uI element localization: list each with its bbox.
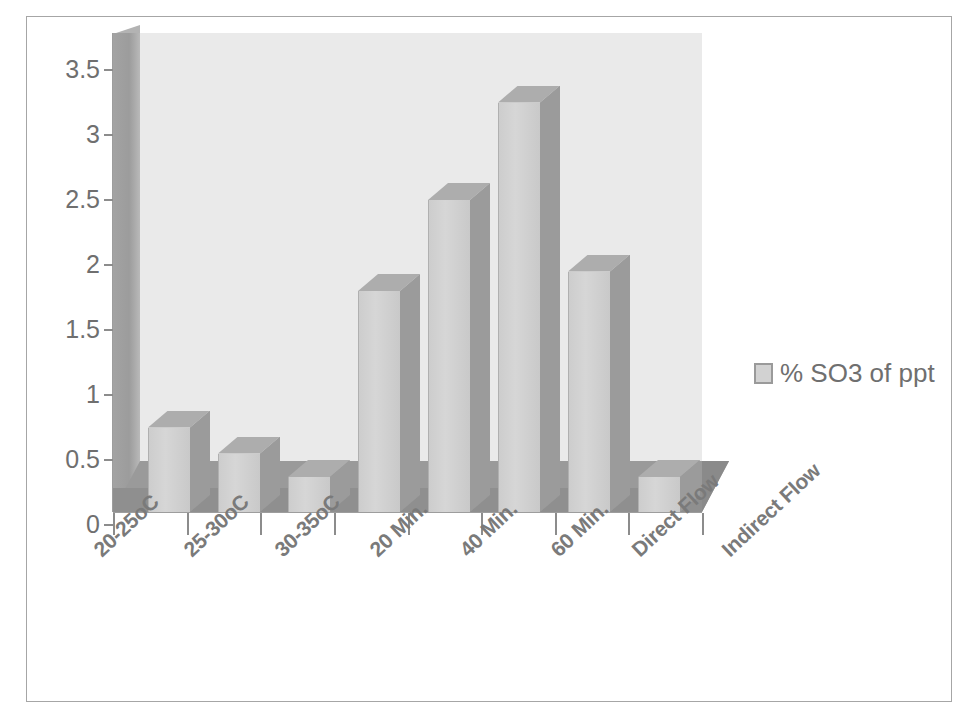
bar-side-face (400, 274, 420, 512)
bar-side-face (610, 255, 630, 513)
y-axis-tick-label-text: 2 (30, 252, 100, 277)
y-axis-tick-label-text: 1 (30, 382, 100, 407)
legend-label: % SO3 of ppt (780, 358, 935, 389)
y-axis-tick-label-text: 2.5 (30, 187, 100, 212)
bar-front-face (498, 103, 540, 513)
bar-front-face (358, 291, 400, 512)
y-axis-tick (104, 459, 113, 461)
chart-frame: 00.511.522.533.5 20-25oC25-30oC30-35oC20… (26, 16, 952, 702)
bar-side-face (470, 183, 490, 512)
x-axis-tick (702, 513, 704, 535)
y-axis-tick-label-text: 0.5 (30, 447, 100, 472)
y-axis-tick-label-text: 3.5 (30, 57, 100, 82)
bar-side-face (190, 411, 210, 513)
bar-front-face (568, 272, 610, 513)
x-axis-tick (187, 513, 189, 535)
y-axis-tick (104, 329, 113, 331)
x-axis-tick (628, 513, 630, 535)
bar-column (428, 183, 490, 512)
y-axis-tick (104, 134, 113, 136)
y-axis-tick-label-text: 1.5 (30, 317, 100, 342)
x-axis-tick (555, 513, 557, 535)
x-axis-tick (260, 513, 262, 535)
chart-legend: % SO3 of ppt (754, 358, 935, 389)
y-axis-line (112, 33, 113, 512)
legend-swatch-icon (754, 363, 773, 384)
chart-left-wall (113, 33, 140, 488)
y-axis-tick-label-text: 0 (30, 512, 100, 537)
x-axis-label: Indirect Flow (717, 458, 825, 561)
bar-side-face (540, 86, 560, 513)
y-axis-tick (104, 264, 113, 266)
plot-area: 00.511.522.533.5 20-25oC25-30oC30-35oC20… (27, 17, 953, 703)
y-axis-tick (104, 394, 113, 396)
bar-column (148, 411, 210, 513)
y-axis-tick (104, 69, 113, 71)
y-axis-tick-label-text: 3 (30, 122, 100, 147)
bar-front-face (428, 200, 470, 512)
bar-column (568, 255, 630, 513)
bar-column (498, 86, 560, 513)
bar-column (358, 274, 420, 512)
y-axis-tick (104, 199, 113, 201)
